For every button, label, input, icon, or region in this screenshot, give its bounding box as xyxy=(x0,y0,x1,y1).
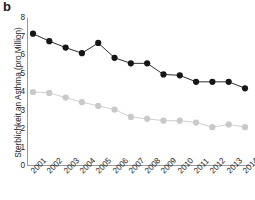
x-tick-label: 2013 xyxy=(225,156,244,175)
x-tick-label: 2002 xyxy=(45,156,64,175)
x-tick-label: 2005 xyxy=(94,156,113,175)
x-axis-tick-labels: 2001200220032004200520062007200820092010… xyxy=(0,0,255,200)
x-tick-label: 2011 xyxy=(192,157,211,176)
x-tick-label: 2003 xyxy=(62,156,81,175)
x-tick-label: 2014 xyxy=(241,156,255,175)
x-tick-label: 2012 xyxy=(208,156,227,175)
chart-panel: b Sterblichkeit an Asthma (pro Million) … xyxy=(0,0,255,200)
x-tick-label: 2004 xyxy=(78,156,97,175)
x-tick-label: 2009 xyxy=(159,156,178,175)
x-tick-label: 2008 xyxy=(143,156,162,175)
x-tick-label: 2007 xyxy=(127,156,146,175)
x-tick-label: 2006 xyxy=(111,156,130,175)
x-tick-label: 2010 xyxy=(176,156,195,175)
x-tick-label: 2001 xyxy=(29,156,48,175)
